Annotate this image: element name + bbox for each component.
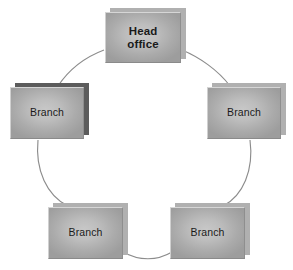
edge-branch-left-to-bottom-left: [38, 140, 68, 206]
edge-branch-right-to-bottom-right: [223, 140, 251, 206]
ring-network-diagram: Head office Branch Branch Branch Branch: [0, 0, 293, 270]
branch-right-node[interactable]: Branch: [207, 87, 281, 139]
branch-bottom-right-node[interactable]: Branch: [170, 207, 245, 259]
branch-bottom-right-node-label: Branch: [191, 227, 225, 239]
branch-right-node-label: Branch: [227, 107, 261, 119]
branch-left-node[interactable]: Branch: [10, 87, 84, 139]
branch-bottom-left-node-label: Branch: [69, 227, 103, 239]
head-office-node[interactable]: Head office: [105, 12, 181, 63]
edge-bottom-left-to-bottom-right: [123, 252, 172, 259]
branch-left-node-label: Branch: [30, 107, 64, 119]
head-office-node-label: Head office: [127, 25, 158, 51]
branch-bottom-left-node[interactable]: Branch: [48, 207, 123, 259]
edge-head-to-branch-right: [182, 50, 230, 86]
edge-head-to-branch-left: [58, 50, 104, 86]
